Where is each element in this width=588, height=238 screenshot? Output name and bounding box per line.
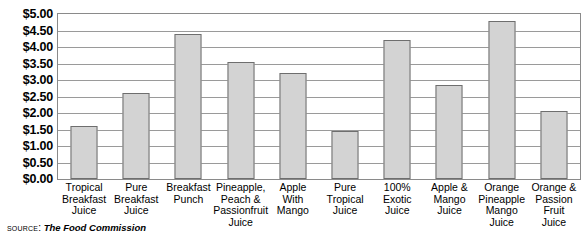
y-tick-label: $0.50	[0, 156, 53, 169]
y-tick-label: $4.50	[0, 24, 53, 37]
bar[interactable]	[332, 131, 359, 179]
x-tick-label-line: Juice	[522, 217, 586, 229]
bar[interactable]	[488, 21, 515, 179]
bar[interactable]	[279, 73, 306, 179]
y-tick-label: $0.00	[0, 173, 53, 186]
x-tick-label-line: Juice	[209, 217, 273, 229]
bar-slot	[215, 14, 267, 179]
bar-slot	[162, 14, 214, 179]
x-tick-label-line: Orange &	[522, 182, 586, 194]
bar[interactable]	[175, 34, 202, 179]
y-tick-label: $2.00	[0, 107, 53, 120]
y-tick-label: $4.00	[0, 41, 53, 54]
bar-slot	[423, 14, 475, 179]
y-tick-label: $3.50	[0, 57, 53, 70]
bar-slot	[319, 14, 371, 179]
bar-slot	[110, 14, 162, 179]
bar-slot	[58, 14, 110, 179]
y-tick-label: $2.50	[0, 90, 53, 103]
bar-slot	[476, 14, 528, 179]
bar-slot	[528, 14, 580, 179]
bar[interactable]	[227, 62, 254, 179]
y-tick-label: $1.00	[0, 140, 53, 153]
y-tick-label: $5.00	[0, 8, 53, 21]
source-label: Source:	[7, 222, 41, 233]
source-note: Source: The Food Commission	[7, 222, 146, 233]
source-value: The Food Commission	[44, 222, 146, 233]
bar[interactable]	[540, 111, 567, 179]
bar[interactable]	[384, 40, 411, 179]
bar[interactable]	[123, 93, 150, 179]
bars-layer	[58, 14, 580, 179]
bar-slot	[267, 14, 319, 179]
x-tick-label: Orange &PassionFruitJuice	[522, 182, 586, 228]
juice-price-bar-chart: $5.00$4.50$4.00$3.50$3.00$2.50$2.00$1.50…	[0, 0, 588, 238]
bar[interactable]	[436, 85, 463, 179]
y-axis: $5.00$4.50$4.00$3.50$3.00$2.50$2.00$1.50…	[0, 13, 53, 180]
y-tick-label: $3.00	[0, 74, 53, 87]
x-tick-label-line: Juice	[104, 205, 168, 217]
chart-title	[0, 0, 588, 3]
y-tick-label: $1.50	[0, 123, 53, 136]
bar[interactable]	[71, 126, 98, 179]
bar-slot	[371, 14, 423, 179]
